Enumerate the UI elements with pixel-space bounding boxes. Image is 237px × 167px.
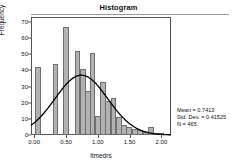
x-tick-mark bbox=[66, 135, 67, 138]
stat-std-dev: Std. Dev. = 0.41525 bbox=[177, 114, 226, 121]
x-tick-mark bbox=[161, 135, 162, 138]
y-tick-mark bbox=[28, 21, 31, 22]
y-tick-mark bbox=[28, 102, 31, 103]
y-tick-mark bbox=[28, 86, 31, 87]
title-divider bbox=[31, 14, 229, 15]
y-tick-mark bbox=[28, 70, 31, 71]
x-tick-mark bbox=[130, 135, 131, 138]
y-tick-mark bbox=[28, 118, 31, 119]
y-tick-mark bbox=[28, 54, 31, 55]
stat-n: N = 465 bbox=[177, 121, 226, 128]
y-axis-title: Frequency bbox=[0, 0, 5, 50]
plot-area: 010203040506070 0.000.501.001.502.00 bbox=[31, 17, 171, 135]
x-tick-mark bbox=[98, 135, 99, 138]
stat-mean: Mean = 0.7413 bbox=[177, 107, 226, 114]
histogram-figure: Histogram 010203040506070 0.000.501.001.… bbox=[0, 0, 237, 167]
x-axis-title: ltmedrs bbox=[31, 152, 171, 159]
normal-curve bbox=[31, 17, 171, 135]
chart-title: Histogram bbox=[0, 3, 237, 12]
y-tick-mark bbox=[28, 38, 31, 39]
x-tick-mark bbox=[34, 135, 35, 138]
statistics-box: Mean = 0.7413 Std. Dev. = 0.41525 N = 46… bbox=[177, 107, 226, 128]
